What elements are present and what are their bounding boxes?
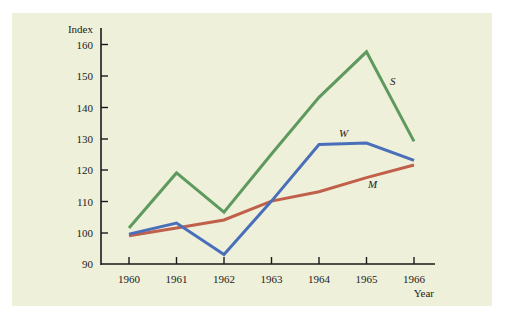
- y-tick-label: 140: [77, 102, 94, 114]
- x-tick-label: 1966: [403, 273, 426, 285]
- y-ticks: [101, 45, 108, 234]
- series-label-w: W: [339, 127, 349, 139]
- y-tick-label: 100: [77, 227, 94, 239]
- x-ticks: [129, 257, 414, 264]
- y-tick-label: 130: [77, 133, 94, 145]
- x-tick-label: 1965: [356, 273, 379, 285]
- x-tick-label: 1962: [213, 273, 235, 285]
- y-tick-label: 110: [77, 196, 94, 208]
- y-tick-label: 160: [77, 39, 94, 51]
- x-tick-label: 1963: [261, 273, 284, 285]
- x-tick-label: 1960: [118, 273, 141, 285]
- x-axis-title: Year: [414, 287, 435, 299]
- y-tick-label: 120: [77, 164, 94, 176]
- y-tick-label: 90: [82, 258, 94, 270]
- y-tick-label: 150: [77, 70, 94, 82]
- x-tick-label: 1961: [166, 273, 188, 285]
- series-line-w: [129, 143, 414, 255]
- y-axis-title: Index: [68, 23, 94, 35]
- x-tick-label: 1964: [308, 273, 331, 285]
- line-chart: Index 160 150 140 130 120 110 100 90 196…: [0, 0, 507, 319]
- series-label-s: S: [390, 75, 396, 87]
- series-layer: [129, 52, 414, 255]
- series-label-m: M: [367, 178, 378, 190]
